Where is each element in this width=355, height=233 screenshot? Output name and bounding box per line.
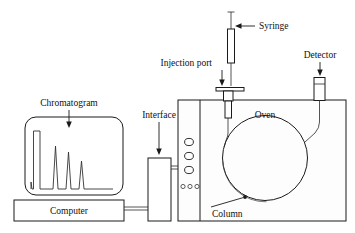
syringe-barrel — [228, 29, 235, 63]
interface-annotation — [156, 122, 162, 155]
indicator-light-2[interactable] — [188, 184, 192, 188]
interface-arrowhead — [156, 149, 162, 156]
detector-annotation — [317, 62, 323, 76]
injection-port-neck — [224, 91, 234, 101]
interface-box — [148, 158, 171, 221]
syringe-arrowhead — [235, 23, 242, 29]
injection-port-annotation — [219, 70, 225, 86]
syringe-annotation — [235, 23, 255, 29]
detector-body — [314, 78, 325, 101]
computer-interface-cable — [124, 207, 148, 210]
chromatogram-label: Chromatogram — [40, 98, 98, 108]
detector-block — [314, 78, 325, 101]
detector-label: Detector — [304, 50, 338, 60]
computer-label: Computer — [50, 206, 89, 216]
syringe — [228, 12, 235, 86]
indicator-light-3[interactable] — [195, 184, 199, 188]
column-label: Column — [212, 209, 243, 219]
interface-rect — [148, 158, 171, 221]
indicator-light-1[interactable] — [181, 184, 185, 188]
syringe-label: Syringe — [259, 21, 289, 31]
injection-port-body — [225, 101, 232, 118]
interface-label: Interface — [142, 110, 176, 120]
detector-arrowhead — [317, 70, 323, 77]
gc-diagram-root: Chromatogram Computer Interface — [0, 0, 355, 233]
injection-port-septum-plate — [216, 88, 244, 92]
injection-port-arrowhead — [219, 80, 225, 87]
control-knob-3[interactable] — [185, 166, 194, 173]
oven-label: Oven — [255, 110, 276, 120]
control-knob-2[interactable] — [185, 152, 194, 159]
injection-port-label: Injection port — [161, 58, 213, 68]
control-knob-1[interactable] — [185, 138, 194, 145]
gc-schematic-svg: Chromatogram Computer Interface — [0, 0, 355, 233]
column-leader-dot — [243, 195, 247, 199]
